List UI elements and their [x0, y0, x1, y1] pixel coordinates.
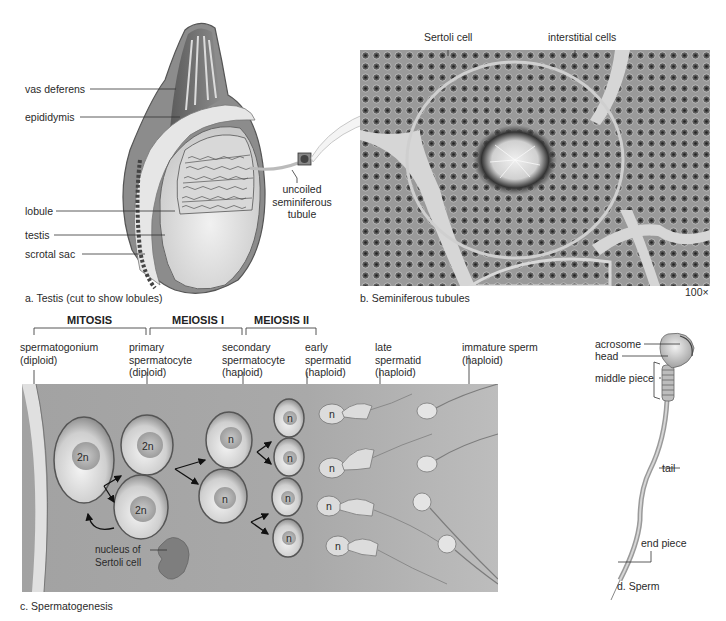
label-middle-piece: middle piece [595, 372, 654, 385]
label-head: head [595, 350, 618, 363]
sperm-illustration [0, 0, 726, 621]
label-acrosome: acrosome [595, 338, 641, 351]
label-tail: tail [662, 462, 675, 475]
caption-panel-d: d. Sperm [617, 580, 660, 592]
label-end-piece: end piece [641, 537, 687, 550]
